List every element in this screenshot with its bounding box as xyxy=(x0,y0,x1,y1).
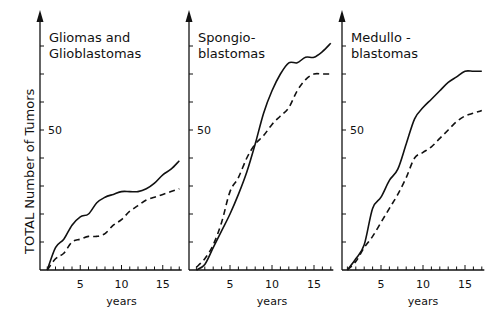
panel-title: blastomas xyxy=(198,46,265,61)
panel-title: Gliomas and xyxy=(49,30,130,45)
chart-panel-1: 5101550yearsGliomas andGlioblastomas xyxy=(37,10,182,308)
x-tick-label: 15 xyxy=(307,278,321,291)
figure: TOTAL Number of Tumors 5101550yearsGliom… xyxy=(0,0,504,324)
y-tick-label: 50 xyxy=(350,124,364,137)
panel-title: blastomas xyxy=(351,46,418,61)
panel-title: Glioblastomas xyxy=(49,46,142,61)
x-tick-label: 15 xyxy=(458,278,472,291)
y-tick-label: 50 xyxy=(197,124,211,137)
series-line-dashed xyxy=(47,189,179,270)
y-axis-arrow-icon xyxy=(186,10,193,22)
x-tick-label: 5 xyxy=(77,278,84,291)
x-tick-label: 10 xyxy=(416,278,430,291)
y-axis-label: TOTAL Number of Tumors xyxy=(22,88,37,255)
panel-title: Spongio- xyxy=(198,30,256,45)
x-tick-label: 5 xyxy=(378,278,385,291)
chart-panel-2: 5101550yearsSpongio-blastomas xyxy=(186,10,334,308)
x-tick-label: 5 xyxy=(227,278,234,291)
y-tick-label: 50 xyxy=(48,124,62,137)
x-axis-label: years xyxy=(408,295,439,308)
series-line-solid xyxy=(47,161,179,270)
chart-panel-3: 5101550yearsMedullo -blastomas xyxy=(339,10,485,308)
x-axis-label: years xyxy=(106,295,137,308)
series-line-dashed xyxy=(196,74,330,268)
x-tick-label: 10 xyxy=(265,278,279,291)
series-line-solid xyxy=(347,71,481,270)
x-tick-label: 15 xyxy=(156,278,170,291)
y-axis-arrow-icon xyxy=(339,10,346,22)
panel-title: Medullo - xyxy=(351,30,411,45)
series-line-solid xyxy=(196,43,330,270)
x-axis-label: years xyxy=(257,295,288,308)
x-tick-label: 10 xyxy=(115,278,129,291)
y-axis-arrow-icon xyxy=(37,10,44,22)
series-line-dashed xyxy=(347,110,481,270)
